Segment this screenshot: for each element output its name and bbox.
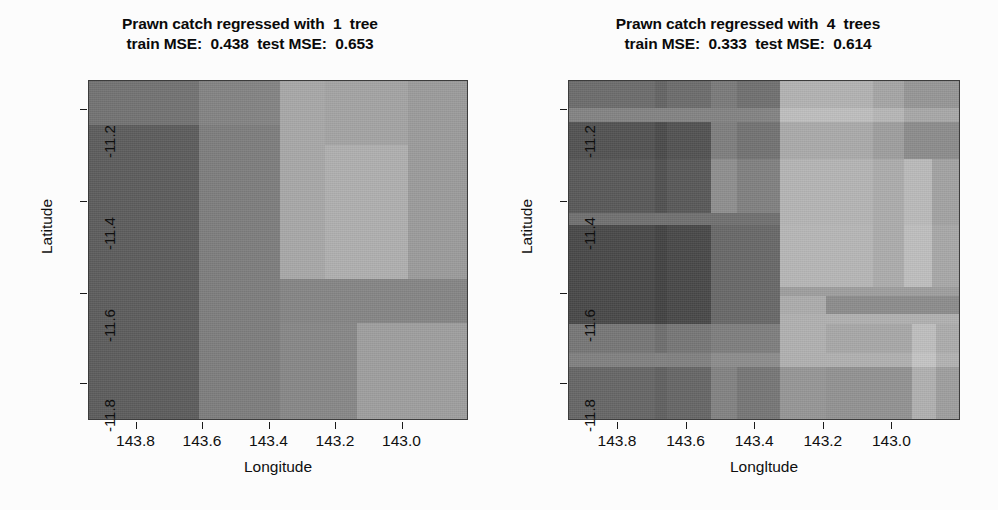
x-tick-mark [823,422,824,429]
heatmap-cell [904,122,959,160]
heatmap-cell [932,159,960,213]
x-tick-label: 143.6 [666,432,705,450]
heatmap-cell [667,324,712,353]
x-tick-mark [269,422,270,429]
y-tick-label: -11.8 [581,399,598,432]
heatmap-cell [325,145,409,279]
x-tick-mark [335,422,336,429]
y-tick-label: -11.2 [581,125,598,158]
x-tick-mark [754,422,755,429]
heatmap-cell [873,108,905,122]
heatmap-cell [737,81,780,108]
x-tick-mark [891,422,892,429]
heatmap-cell [667,367,712,420]
heatmap-cell [780,296,827,315]
heatmap-cell [711,225,780,325]
heatmap-cell [936,324,960,353]
figure-canvas: Prawn catch regressed with 1 tree train … [0,0,998,510]
heatmap-cell [780,122,874,160]
x-tick-label: 143.4 [735,432,774,450]
heatmap-cell [655,225,667,325]
plot-title-line2: train MSE: 0.438 test MSE: 0.653 [0,34,500,54]
x-axis-title-right: Longltude [568,458,960,476]
heatmap-cell [667,159,712,213]
heatmap-cell [904,213,932,225]
heatmap-left[interactable] [88,80,468,420]
heatmap-cell [912,324,936,353]
y-tick-mark [80,383,87,384]
heatmap-cell [904,225,932,288]
heatmap-cell [737,159,780,213]
heatmap-cell [780,353,913,367]
heatmap-cell [711,324,780,353]
heatmap-cell [280,323,358,420]
x-tick-mark [686,422,687,429]
heatmap-cell [904,159,932,213]
heatmap-cell [873,225,905,288]
heatmap-cell [780,225,874,288]
heatmap-cell [826,324,912,353]
x-tick-label: 143.8 [598,432,637,450]
heatmap-cell [667,225,712,325]
y-tick-label: -11.2 [101,125,118,158]
x-axis-title-left: Longitude [88,458,468,476]
heatmap-cell [569,159,655,213]
heatmap-cell [936,353,960,367]
heatmap-cell [711,367,737,420]
plot-title-line1: Prawn catch regressed with 4 trees [498,14,998,34]
y-tick-mark [80,293,87,294]
heatmap-cell [655,324,667,353]
heatmap-cell [199,125,281,419]
heatmap-cell [667,81,712,108]
plot-panel-left: Prawn catch regressed with 1 tree train … [0,0,500,510]
x-tick-mark [617,422,618,429]
heatmap-cell [932,225,960,288]
x-tick-mark [202,422,203,429]
plot-panel-right: Prawn catch regressed with 4 trees train… [498,0,998,510]
y-axis-title-left: Latitude [38,182,56,317]
y-tick-mark [80,201,87,202]
heatmap-cell [408,81,467,279]
heatmap-cell [936,367,960,420]
heatmap-cell [280,81,326,279]
heatmap-cell [655,159,667,213]
heatmap-cell [89,125,199,419]
heatmap-cell [904,81,959,108]
x-tick-label: 143.0 [872,432,911,450]
heatmap-cell [325,81,409,146]
heatmap-cell [655,81,667,108]
heatmap-cell [569,353,712,367]
y-tick-mark [560,201,567,202]
heatmap-cell [932,213,960,225]
heatmap-right[interactable] [568,80,960,420]
x-tick-mark [402,422,403,429]
y-tick-mark [560,383,567,384]
y-tick-label: -11.4 [581,217,598,250]
y-tick-label: -11.4 [101,217,118,250]
heatmap-cell [780,159,874,213]
y-tick-mark [80,109,87,110]
heatmap-cell [826,296,959,315]
heatmap-cell [780,367,827,420]
heatmap-cell [904,108,959,122]
plot-title-right: Prawn catch regressed with 4 trees train… [498,14,998,54]
x-tick-mark [136,422,137,429]
x-tick-label: 143.8 [116,432,155,450]
heatmap-cell [655,122,667,160]
heatmap-cell [873,81,905,108]
heatmap-cell [780,213,874,225]
x-tick-label: 143.2 [316,432,355,450]
y-tick-label: -11.8 [101,399,118,432]
heatmap-cell [873,213,905,225]
heatmap-cell [667,122,712,160]
plot-title-line2: train MSE: 0.333 test MSE: 0.614 [498,34,998,54]
heatmap-cell [780,324,827,353]
y-axis-title-right: Latitude [518,182,536,317]
heatmap-cell [737,122,780,160]
heatmap-cell [711,81,737,108]
heatmap-cell [199,81,281,125]
heatmap-cell [89,81,199,125]
heatmap-cell [711,159,737,213]
y-tick-mark [560,293,567,294]
heatmap-cell [357,323,467,420]
